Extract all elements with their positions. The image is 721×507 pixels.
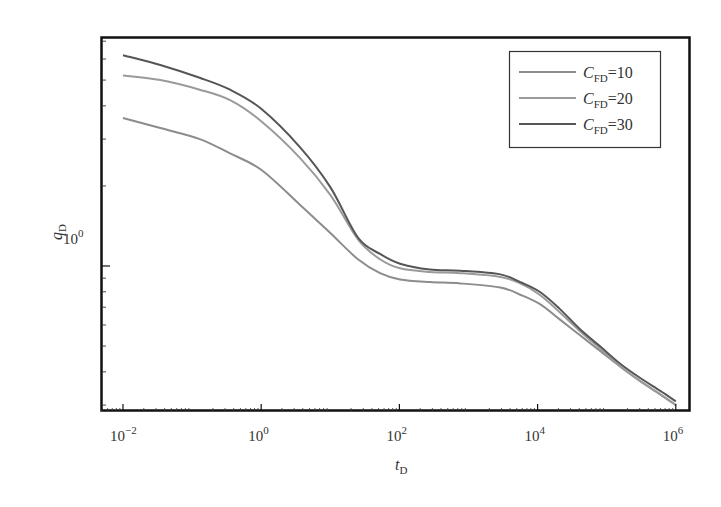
x-tick-label: 104 bbox=[525, 424, 546, 444]
x-tick-label: 102 bbox=[386, 424, 407, 444]
x-axis-label: tD bbox=[395, 456, 407, 476]
x-tick-label: 106 bbox=[663, 424, 684, 444]
x-tick-label: 100 bbox=[248, 424, 269, 444]
y-axis: 100 bbox=[63, 41, 110, 405]
x-tick-label: 10−2 bbox=[110, 424, 137, 444]
legend: CFD=10CFD=20CFD=30 bbox=[510, 52, 661, 148]
chart: 10−2100102104106 100 tD qD CFD=10CFD=20C… bbox=[0, 0, 721, 507]
series-line-1 bbox=[123, 118, 676, 405]
